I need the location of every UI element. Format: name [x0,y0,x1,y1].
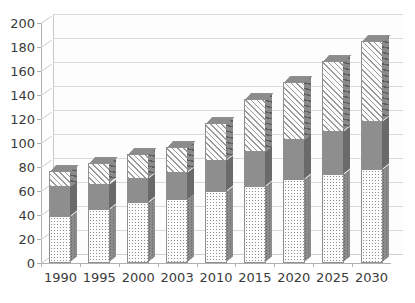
x-axis-tick-label: 2015 [238,270,271,285]
bar-column[interactable] [166,147,188,263]
x-axis-tick-label: 2025 [316,270,349,285]
y-axis-tick-label: 120 [10,112,35,127]
bar-column[interactable] [322,61,344,263]
gridline-depth-connector [41,40,52,48]
bar-segment[interactable] [361,121,383,169]
bar-column[interactable] [127,154,149,263]
x-axis-tick-label: 1990 [44,270,77,285]
bar-segment[interactable] [244,151,266,186]
y-axis-tick [37,71,41,72]
bar-column[interactable] [205,123,227,263]
x-axis-tick [197,263,198,267]
bar-segment[interactable] [127,178,149,202]
bar-segment[interactable] [283,179,305,263]
y-axis-tick [37,143,41,144]
bar-segment[interactable] [361,169,383,263]
chart-container: 020406080100120140160180200 199019952000… [0,0,415,303]
bar-segment[interactable] [166,147,188,172]
bar-segment[interactable] [205,191,227,263]
y-axis-tick [37,215,41,216]
bar-segment[interactable] [127,154,149,178]
x-axis-tick [41,263,42,267]
bar-column[interactable] [88,163,110,263]
y-axis-tick [37,47,41,48]
bar-segment[interactable] [88,209,110,263]
x-axis-tick-label: 2010 [199,270,232,285]
x-axis-tick-label: 1995 [83,270,116,285]
y-axis-tick-label: 80 [18,160,35,175]
bar-column[interactable] [49,171,71,263]
bar-column[interactable] [244,99,266,263]
gridline-depth-connector [41,64,52,72]
y-axis-tick [37,191,41,192]
gridline [53,110,403,111]
bar-segment[interactable] [322,174,344,263]
x-axis-tick [235,263,236,267]
gridline-depth-connector [41,160,52,168]
y-axis-tick-label: 140 [10,88,35,103]
bar-column[interactable] [283,82,305,263]
x-axis-tick-label: 2003 [161,270,194,285]
y-axis-tick-label: 160 [10,64,35,79]
y-axis-tick [37,119,41,120]
y-axis-tick [37,23,41,24]
bar-segment[interactable] [361,41,383,121]
x-axis-tick [119,263,120,267]
y-axis-tick-label: 40 [18,208,35,223]
x-axis-tick [274,263,275,267]
bar-segment[interactable] [205,123,227,160]
bar-segment[interactable] [49,171,71,187]
bar-segment[interactable] [88,184,110,209]
x-axis-tick-label: 2030 [355,270,388,285]
gridline-depth-connector [41,88,52,96]
gridline [53,14,403,15]
gridline [53,86,403,87]
bar-segment[interactable] [283,82,305,140]
x-axis-tick [80,263,81,267]
gridline [53,38,403,39]
bar-segment[interactable] [205,160,227,191]
bar-segment[interactable] [166,199,188,263]
bar-segment[interactable] [283,139,305,179]
gridline-depth-connector [41,16,52,24]
bar-segment[interactable] [88,163,110,183]
y-axis-tick-label: 200 [10,16,35,31]
y-axis-tick-label: 20 [18,232,35,247]
bar-segment[interactable] [322,61,344,131]
bar-segment[interactable] [322,131,344,174]
y-axis-tick [37,95,41,96]
gridline-depth-connector [41,112,52,120]
x-axis-tick [352,263,353,267]
gridline-depth-connector [41,136,52,144]
y-axis-tick-label: 60 [18,184,35,199]
y-axis-tick [37,239,41,240]
x-axis-tick [158,263,159,267]
y-axis-tick-label: 100 [10,136,35,151]
x-axis-tick-label: 2000 [122,270,155,285]
x-axis-tick [313,263,314,267]
bar-segment[interactable] [244,99,266,152]
x-axis-line [41,263,391,264]
gridline [53,62,403,63]
y-axis-tick [37,167,41,168]
y-axis-tick-label: 180 [10,40,35,55]
bar-column[interactable] [361,41,383,263]
bar-segment[interactable] [49,186,71,216]
plot-area: 020406080100120140160180200 199019952000… [41,23,403,263]
bar-segment[interactable] [49,216,71,263]
x-axis-tick-label: 2020 [277,270,310,285]
bar-segment[interactable] [244,186,266,263]
y-axis-tick-label: 0 [27,256,35,271]
bar-segment[interactable] [166,172,188,200]
bar-segment[interactable] [127,202,149,263]
